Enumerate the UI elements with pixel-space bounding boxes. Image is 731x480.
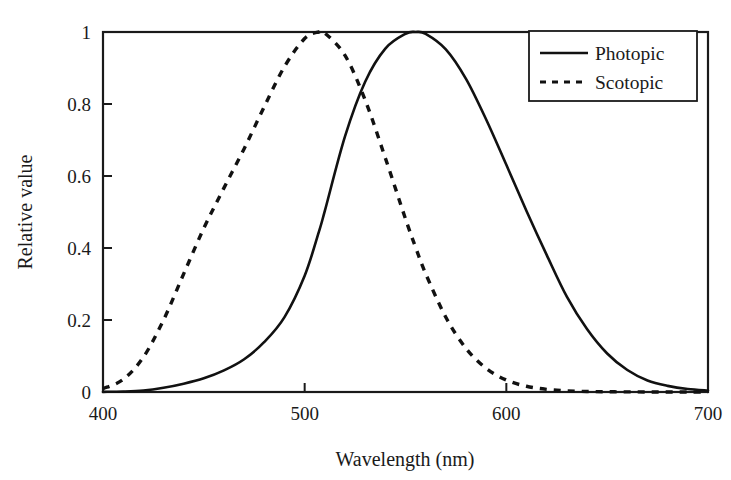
x-tick-label: 700 xyxy=(694,403,723,424)
legend-label-photopic: Photopic xyxy=(595,43,665,64)
x-axis-ticks xyxy=(103,383,708,392)
legend-label-scotopic: Scotopic xyxy=(595,72,664,93)
x-tick-label: 600 xyxy=(492,403,521,424)
y-tick-label: 0.4 xyxy=(67,238,91,259)
y-axis-ticks xyxy=(103,32,112,392)
y-tick-label: 0.2 xyxy=(67,310,91,331)
x-tick-label: 400 xyxy=(89,403,118,424)
y-axis-title: Relative value xyxy=(14,154,36,269)
x-axis-tick-labels: 400500600700 xyxy=(89,403,723,424)
luminous-efficiency-chart: 00.20.40.60.81 400500600700 Wavelength (… xyxy=(0,0,731,480)
x-axis-title: Wavelength (nm) xyxy=(336,448,475,471)
y-tick-label: 0 xyxy=(82,382,92,403)
x-tick-label: 500 xyxy=(290,403,319,424)
y-axis-tick-labels: 00.20.40.60.81 xyxy=(67,22,91,403)
figure-container: 00.20.40.60.81 400500600700 Wavelength (… xyxy=(0,0,731,480)
legend: Photopic Scotopic xyxy=(529,31,697,101)
y-tick-label: 0.6 xyxy=(67,166,91,187)
y-tick-label: 1 xyxy=(82,22,92,43)
y-tick-label: 0.8 xyxy=(67,94,91,115)
